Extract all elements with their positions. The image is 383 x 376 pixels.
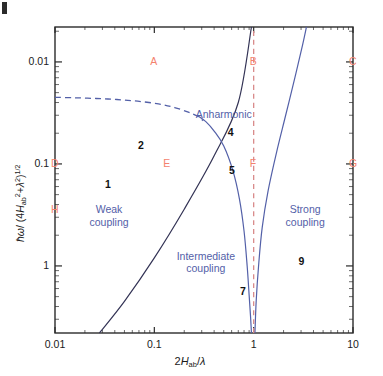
marker-label-C: C: [349, 55, 357, 67]
figure-panel: 0.010.111010.10.01 2Hab/λ ħω/ (4Hab2+λ2)…: [0, 0, 383, 376]
region-label-intermediate-coupling: Intermediatecoupling: [161, 250, 251, 275]
x-axis-title: 2Hab/λ: [175, 355, 206, 369]
region-label-anharmonic: Anharmonic: [179, 108, 269, 121]
plot-area: [55, 27, 353, 333]
region-label-line1: Intermediate: [161, 250, 251, 263]
region-label-line1: Anharmonic: [179, 108, 269, 121]
x-tick-label: 0.1: [134, 338, 174, 350]
marker-label-E: E: [163, 157, 170, 169]
region-number-1: 1: [105, 178, 111, 190]
marker-label-G: G: [349, 157, 357, 169]
curve-right-anharmonic-boundary: [255, 27, 307, 333]
region-number-9: 9: [298, 255, 304, 267]
y-tick-label: 1: [13, 259, 49, 271]
curve-left-anharmonic-boundary: [197, 115, 251, 333]
region-label-line2: coupling: [161, 262, 251, 275]
region-number-4: 4: [228, 126, 234, 138]
region-label-line1: Weak: [64, 203, 154, 216]
region-label-line1: Strong: [260, 203, 350, 216]
marker-label-F: F: [250, 157, 256, 169]
y-axis-title: ħω/ (4Hab2+λ2)1/2: [14, 165, 28, 242]
marker-label-H: H: [51, 203, 59, 215]
plot-frame: [55, 27, 353, 333]
x-tick-label: 0.01: [35, 338, 75, 350]
x-tick-label: 1: [234, 338, 274, 350]
region-number-2: 2: [138, 139, 144, 151]
curve-diagonal-boundary: [99, 27, 251, 333]
region-label-weak-coupling: Weakcoupling: [64, 203, 154, 228]
marker-label-D: D: [51, 157, 59, 169]
marker-label-A: A: [150, 55, 157, 67]
marker-label-B: B: [250, 55, 257, 67]
plot-graphics: [55, 27, 353, 333]
y-tick-label: 0.01: [13, 55, 49, 67]
x-tick-label: 10: [333, 338, 373, 350]
region-label-strong-coupling: Strongcoupling: [260, 203, 350, 228]
region-number-5: 5: [229, 164, 235, 176]
region-label-line2: coupling: [260, 216, 350, 229]
figure-corner-mark: [2, 2, 7, 14]
region-number-7: 7: [240, 285, 246, 297]
region-label-line2: coupling: [64, 216, 154, 229]
